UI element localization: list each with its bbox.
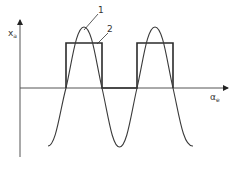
- y-axis-label: xa: [8, 28, 17, 39]
- curve-label-2: 2: [107, 24, 113, 34]
- curve-label-1: 1: [98, 5, 104, 15]
- waveform-diagram: 1 2 xa αe: [0, 0, 238, 170]
- sine-wave-curve: [48, 27, 193, 147]
- label-1-leader: [84, 14, 98, 30]
- x-axis-label: αe: [210, 92, 220, 103]
- square-wave-curve: [66, 43, 173, 88]
- y-axis-label-subscript: a: [13, 32, 17, 39]
- x-axis-label-subscript: e: [216, 96, 220, 103]
